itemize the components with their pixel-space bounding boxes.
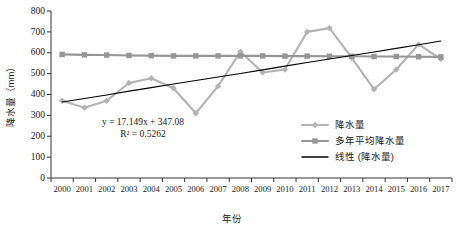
series-marker-1 [238, 53, 243, 58]
legend-label-1: 多年平均降水量 [335, 135, 405, 146]
legend-swatch-marker-1 [312, 138, 317, 143]
series-marker-1 [215, 53, 220, 58]
series-marker-1 [394, 54, 399, 59]
x-axis-tick-label-2000: 2000 [54, 184, 71, 194]
y-axis-tick-label-200: 200 [31, 131, 46, 141]
x-axis-tick-label-2011: 2011 [299, 184, 316, 194]
trendline-equation: y = 17.149x + 347.08 [102, 117, 184, 127]
precipitation-trend-chart: 0100200300400500600700800200020012002200… [0, 0, 461, 238]
series-line-1 [62, 54, 441, 57]
legend-label-0: 降水量 [335, 119, 365, 130]
series-marker-0 [59, 98, 65, 104]
series-marker-1 [282, 53, 287, 58]
series-marker-0 [81, 104, 87, 110]
y-axis-tick-label-800: 800 [31, 6, 46, 16]
series-marker-1 [416, 54, 421, 59]
x-axis-title: 年份 [222, 213, 242, 224]
x-axis-tick-label-2015: 2015 [388, 184, 405, 194]
series-marker-1 [371, 54, 376, 59]
x-axis-tick-label-2013: 2013 [343, 184, 360, 194]
x-axis-tick-label-2007: 2007 [209, 184, 227, 194]
y-axis-title: 降水量（mm） [5, 62, 16, 128]
chart-canvas: 0100200300400500600700800200020012002200… [0, 0, 461, 238]
series-marker-1 [126, 53, 131, 58]
trendline-r2: R² = 0.5262 [120, 129, 166, 139]
x-axis-tick-label-2009: 2009 [254, 184, 271, 194]
x-axis-tick-label-2001: 2001 [76, 184, 93, 194]
series-marker-1 [438, 54, 443, 59]
legend-swatch-marker-0 [312, 122, 318, 128]
series-marker-0 [148, 75, 154, 81]
series-marker-1 [82, 52, 87, 57]
series-line-0 [62, 28, 441, 113]
series-marker-1 [59, 52, 64, 57]
series-marker-1 [260, 53, 265, 58]
x-axis-tick-label-2016: 2016 [410, 184, 428, 194]
legend-label-2: 线性 (降水量) [335, 151, 394, 162]
x-axis-tick-label-2010: 2010 [276, 184, 293, 194]
x-axis-tick-label-2014: 2014 [365, 184, 383, 194]
series-marker-1 [304, 53, 309, 58]
y-axis-tick-label-500: 500 [31, 68, 46, 78]
x-axis-tick-label-2003: 2003 [120, 184, 137, 194]
y-axis-tick-label-100: 100 [31, 152, 46, 162]
series-marker-1 [149, 53, 154, 58]
x-axis-tick-label-2002: 2002 [98, 184, 115, 194]
x-axis-tick-label-2005: 2005 [165, 184, 182, 194]
y-axis-tick-label-0: 0 [40, 173, 45, 183]
y-axis-tick-label-400: 400 [31, 89, 46, 99]
y-axis-tick-label-700: 700 [31, 27, 46, 37]
x-axis-tick-label-2017: 2017 [432, 184, 450, 194]
y-axis-tick-label-600: 600 [31, 47, 46, 57]
series-marker-1 [171, 53, 176, 58]
x-axis-tick-label-2012: 2012 [321, 184, 338, 194]
x-axis-tick-label-2008: 2008 [232, 184, 249, 194]
x-axis-tick-label-2004: 2004 [143, 184, 161, 194]
series-marker-1 [193, 53, 198, 58]
y-axis-tick-label-300: 300 [31, 110, 46, 120]
series-line-2 [62, 41, 441, 102]
series-marker-1 [104, 52, 109, 57]
x-axis-tick-label-2006: 2006 [187, 184, 205, 194]
